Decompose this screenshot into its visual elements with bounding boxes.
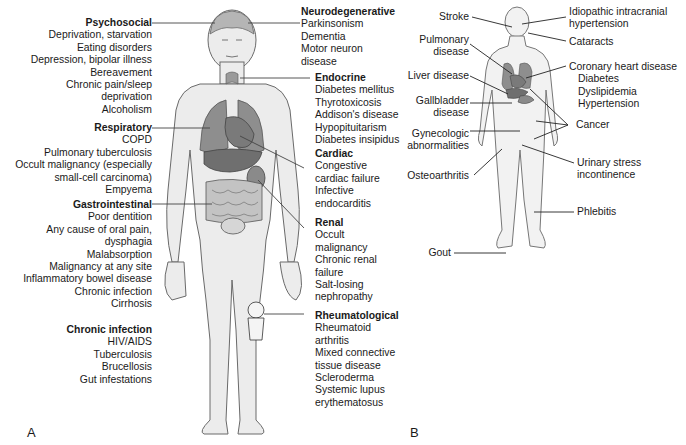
group-item: Scleroderma [315,372,399,384]
group-title: Cardiac [315,148,380,160]
group-item: Chronic pain/sleep [31,79,152,91]
group-item: deprivation [31,91,152,103]
group-title: Rheumatological [315,310,399,322]
group-neurodegenerative: Neurodegenerative Parkinsonism Dementia … [301,6,395,68]
group-item: Congestive [315,160,380,172]
group-item: Gut infestations [67,374,152,386]
group-item: Occult malignancy (especially [15,159,152,171]
group-title: Gastrointestinal [23,199,152,211]
group-item: Hypopituitarism [315,122,399,134]
group-item: cardiac failure [315,173,380,185]
group-item: malignancy [315,242,377,254]
group-item: HIV/AIDS [67,336,152,348]
group-item: Any cause of oral pain, [23,224,152,236]
group-item: Deprivation, starvation [31,29,152,41]
panel-letter-a: A [27,425,36,440]
group-item: dysphagia [23,236,152,248]
group-item: COPD [15,134,152,146]
group-item: nephropathy [315,291,377,303]
group-item: Thyrotoxicosis [315,97,399,109]
label-cancer: Cancer [576,119,610,131]
group-item: Poor dentition [23,211,152,223]
group-item: arthritis [315,335,399,347]
group-title: Neurodegenerative [301,6,395,18]
label-gout: Gout [428,247,451,259]
group-item: erythematosus [315,397,399,409]
label-line: Urinary stress [577,157,641,169]
label-line: Pulmonary [419,34,469,46]
group-item: disease [301,56,395,68]
group-item: tissue disease [315,360,399,372]
group-item: Chronic infection [23,286,152,298]
label-line: Gynecologic [407,128,469,140]
label-gallbladder-disease: Gallbladder disease [416,95,469,120]
group-item: small-cell carcinoma) [15,172,152,184]
label-line: abnormalities [407,140,469,152]
group-item: Empyema [15,184,152,196]
label-subitem: Diabetes [569,73,677,85]
group-item: Salt-losing [315,279,377,291]
label-stroke: Stroke [439,11,469,23]
group-item: Alcoholism [31,104,152,116]
group-item: Motor neuron [301,43,395,55]
label-gynecologic-abnormalities: Gynecologic abnormalities [407,128,469,153]
group-item: Diabetes mellitus [315,84,399,96]
label-line: disease [416,107,469,119]
group-title: Endocrine [315,72,399,84]
label-liver-disease: Liver disease [408,70,469,82]
group-item: Infective [315,185,380,197]
group-item: endocarditis [315,198,380,210]
knee-joint [248,302,264,340]
label-cataracts: Cataracts [569,36,613,48]
group-item: Dementia [301,31,395,43]
label-line: hypertension [569,18,667,30]
group-renal: Renal Occult malignancy Chronic renal fa… [315,217,377,304]
label-coronary-heart-disease: Coronary heart disease Diabetes Dyslipid… [569,61,677,111]
group-chronic-infection: Chronic infection HIV/AIDS Tuberculosis … [67,324,152,386]
group-cardiac: Cardiac Congestive cardiac failure Infec… [315,148,380,210]
group-endocrine: Endocrine Diabetes mellitus Thyrotoxicos… [315,72,399,146]
group-item: Mixed connective [315,347,399,359]
group-item: Depression, bipolar illness [31,54,152,66]
group-item: Occult [315,229,377,241]
group-item: Inflammatory bowel disease [23,273,152,285]
group-item: Bereavement [31,67,152,79]
label-urinary-stress-incontinence: Urinary stress incontinence [577,157,641,182]
label-line: Gallbladder [416,95,469,107]
group-rheumatological: Rheumatological Rheumatoid arthritis Mix… [315,310,399,409]
panel-letter-b: B [410,425,419,440]
group-item: failure [315,267,377,279]
group-item: Tuberculosis [67,349,152,361]
label-osteoarthritis: Osteoarthritis [407,170,469,182]
group-title: Psychosocial [31,17,152,29]
group-item: Malignancy at any site [23,261,152,273]
group-item: Systemic lupus [315,384,399,396]
group-title: Chronic infection [67,324,152,336]
group-item: Malabsorption [23,249,152,261]
label-line: disease [419,46,469,58]
label-line: Coronary heart disease [569,61,677,73]
group-item: Parkinsonism [301,18,395,30]
label-line: Idiopathic intracranial [569,6,667,18]
group-item: Diabetes insipidus [315,134,399,146]
group-item: Eating disorders [31,42,152,54]
group-item: Chronic renal [315,254,377,266]
label-iih: Idiopathic intracranial hypertension [569,6,667,31]
label-subitem: Hypertension [569,98,677,110]
intestines [206,179,262,223]
label-phlebitis: Phlebitis [577,206,616,218]
label-subitem: Dyslipidemia [569,86,677,98]
group-gastrointestinal: Gastrointestinal Poor dentition Any caus… [23,199,152,311]
label-line: incontinence [577,169,641,181]
group-item: Rheumatoid [315,322,399,334]
group-item: Brucellosis [67,361,152,373]
label-pulmonary-disease: Pulmonary disease [419,34,469,59]
group-item: Addison's disease [315,109,399,121]
group-psychosocial: Psychosocial Deprivation, starvation Eat… [31,17,152,116]
group-title: Respiratory [15,122,152,134]
group-title: Renal [315,217,377,229]
group-item: Cirrhosis [23,298,152,310]
group-item: Pulmonary tuberculosis [15,147,152,159]
group-respiratory: Respiratory COPD Pulmonary tuberculosis … [15,122,152,196]
